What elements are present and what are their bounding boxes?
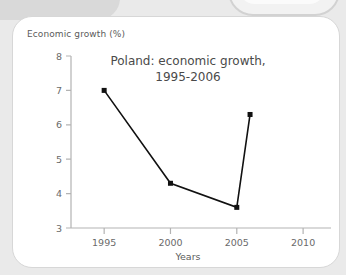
y-tick-label: 8 — [56, 51, 62, 62]
series-data-point — [168, 181, 173, 186]
line-chart: 3456781995200020052010 Poland: economic … — [13, 17, 340, 268]
x-tick-label: 1995 — [92, 237, 116, 248]
y-tick-label: 7 — [56, 85, 62, 96]
x-tick-label: 2000 — [158, 237, 182, 248]
x-tick-label: 2005 — [225, 237, 249, 248]
decorative-pill-top-right-inner — [238, 0, 326, 4]
y-tick-label: 4 — [56, 188, 62, 199]
chart-series — [102, 88, 253, 210]
chart-title-line-2: 1995-2006 — [155, 70, 220, 84]
series-polyline — [104, 90, 250, 207]
y-tick-label: 6 — [56, 119, 62, 130]
series-data-point — [234, 205, 239, 210]
y-tick-label: 5 — [56, 154, 62, 165]
x-tick-label: 2010 — [291, 237, 315, 248]
x-axis-title: Years — [174, 251, 200, 262]
chart-card: Economic growth (%) 34567819952000200520… — [12, 16, 340, 268]
chart-title-line-1: Poland: economic growth, — [110, 54, 265, 68]
series-data-point — [248, 112, 253, 117]
series-data-point — [102, 88, 107, 93]
y-tick-label: 3 — [56, 223, 62, 234]
